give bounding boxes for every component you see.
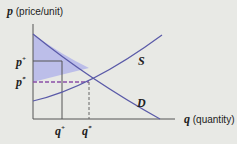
supply-demand-diagram: p (price/unit) q (quantity) S D p+ p* q+…: [0, 0, 237, 144]
y-axis-label: p (price/unit): [6, 4, 63, 18]
supply-label: S: [138, 54, 145, 68]
p-plus-label: p+: [15, 55, 26, 69]
x-axis-label: q (quantity): [184, 112, 234, 126]
q-star-label: q*: [82, 124, 92, 138]
p-star-label: p*: [15, 75, 26, 89]
demand-label: D: [136, 96, 146, 110]
q-plus-label: q+: [55, 124, 65, 138]
